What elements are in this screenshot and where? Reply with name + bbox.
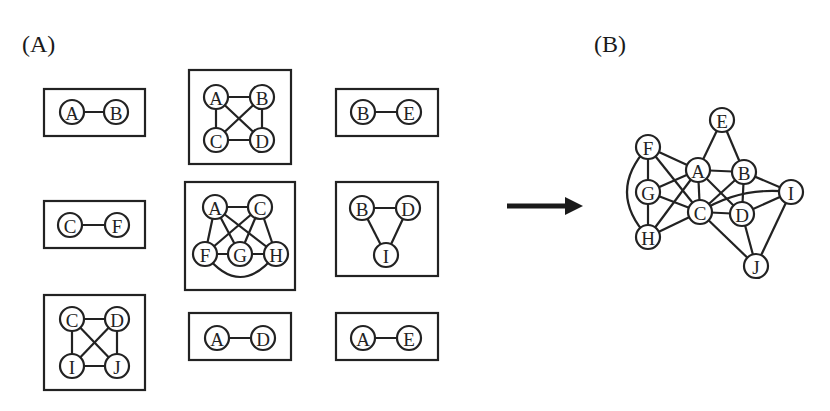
- subgraph-AD: AD: [189, 313, 291, 360]
- node-E: E: [710, 108, 734, 132]
- panel-a-subgraphs: ABABCDBECFACFGHBDICDIJADAE: [44, 70, 438, 390]
- node-label: B: [357, 103, 370, 124]
- node-label: D: [110, 310, 124, 331]
- node-label: H: [641, 228, 655, 249]
- node-label: I: [788, 183, 794, 204]
- node-label: C: [66, 310, 79, 331]
- node-label: B: [256, 88, 269, 109]
- node-label: D: [255, 131, 269, 152]
- node-C: C: [58, 213, 82, 237]
- node-J: J: [744, 254, 768, 278]
- node-label: F: [112, 216, 123, 237]
- node-label: F: [200, 245, 211, 266]
- subgraph-ABCD: ABCD: [189, 70, 291, 164]
- node-H: H: [264, 242, 288, 266]
- node-A: A: [351, 326, 375, 350]
- node-label: A: [210, 329, 224, 350]
- node-label: F: [643, 138, 654, 159]
- node-label: C: [254, 198, 267, 219]
- node-label: B: [356, 199, 369, 220]
- node-A: A: [205, 326, 229, 350]
- node-G: G: [228, 242, 252, 266]
- subgraph-BDI: BDI: [336, 182, 438, 276]
- node-label: A: [208, 198, 222, 219]
- subgraph-ACFGH: ACFGH: [185, 182, 295, 290]
- node-label: E: [716, 111, 728, 132]
- panel-b-label: (B): [594, 31, 626, 57]
- node-label: B: [110, 103, 123, 124]
- node-F: F: [105, 213, 129, 237]
- subgraph-CF: CF: [44, 201, 145, 248]
- node-A: A: [203, 195, 227, 219]
- arrow-head: [565, 197, 583, 215]
- subgraph-AE: AE: [336, 313, 438, 360]
- node-B: B: [104, 100, 128, 124]
- node-F: F: [636, 135, 660, 159]
- node-label: I: [383, 246, 389, 267]
- node-label: A: [356, 329, 370, 350]
- node-J: J: [105, 354, 129, 378]
- subgraph-box: [185, 182, 295, 290]
- node-E: E: [397, 100, 421, 124]
- node-label: G: [233, 245, 247, 266]
- node-C: C: [688, 200, 712, 224]
- node-label: D: [401, 199, 415, 220]
- transform-arrow-icon: [507, 197, 583, 215]
- node-I: I: [779, 180, 803, 204]
- node-H: H: [636, 225, 660, 249]
- node-I: I: [60, 354, 84, 378]
- node-B: B: [732, 160, 756, 184]
- node-G: G: [636, 180, 660, 204]
- node-label: B: [738, 163, 751, 184]
- node-label: C: [210, 131, 223, 152]
- node-label: H: [269, 245, 283, 266]
- node-D: D: [730, 202, 754, 226]
- node-label: A: [691, 161, 705, 182]
- node-A: A: [686, 158, 710, 182]
- node-D: D: [251, 326, 275, 350]
- node-label: J: [113, 357, 120, 378]
- node-label: E: [403, 103, 415, 124]
- node-label: C: [64, 216, 77, 237]
- panel-b-merged-graph: EFABGICDHJ: [627, 108, 803, 278]
- node-B: B: [351, 100, 375, 124]
- subgraph-CDIJ: CDIJ: [44, 295, 145, 390]
- node-label: A: [209, 88, 223, 109]
- node-C: C: [60, 307, 84, 331]
- node-label: E: [403, 329, 415, 350]
- node-A: A: [60, 100, 84, 124]
- node-label: J: [752, 257, 759, 278]
- panel-a-label: (A): [22, 31, 55, 57]
- node-C: C: [204, 128, 228, 152]
- node-label: C: [694, 203, 707, 224]
- node-label: G: [641, 183, 655, 204]
- subgraph-AB: AB: [44, 89, 145, 136]
- node-label: I: [69, 357, 75, 378]
- node-D: D: [396, 196, 420, 220]
- node-D: D: [105, 307, 129, 331]
- node-E: E: [397, 326, 421, 350]
- node-C: C: [248, 195, 272, 219]
- node-A: A: [204, 85, 228, 109]
- node-D: D: [250, 128, 274, 152]
- node-I: I: [374, 243, 398, 267]
- node-B: B: [350, 196, 374, 220]
- graph-decomposition-diagram: (A) (B) ABABCDBECFACFGHBDICDIJADAE EFABG…: [0, 0, 830, 411]
- node-label: D: [735, 205, 749, 226]
- node-label: A: [65, 103, 79, 124]
- subgraph-BE: BE: [336, 89, 438, 136]
- node-F: F: [193, 242, 217, 266]
- node-B: B: [250, 85, 274, 109]
- node-label: D: [256, 329, 270, 350]
